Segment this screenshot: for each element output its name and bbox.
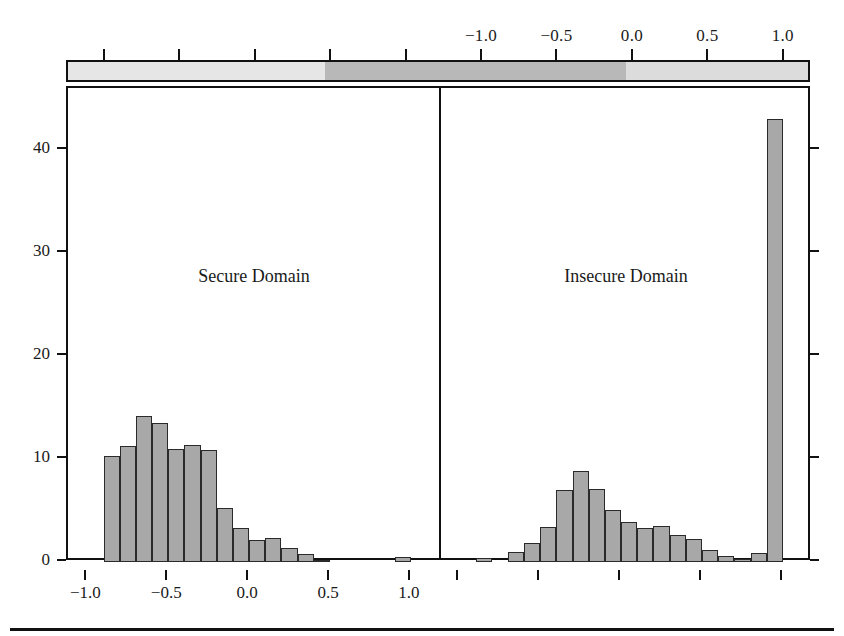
histogram-bar [249, 540, 265, 562]
histogram-bar [233, 528, 249, 562]
x-axis-tick [84, 570, 86, 580]
top-axis-tick [480, 49, 482, 60]
histogram-bar [556, 490, 572, 562]
y-axis-tick [57, 250, 66, 252]
y-axis-label: 40 [0, 138, 50, 158]
histogram-bar [217, 508, 233, 562]
colour-band [626, 62, 810, 80]
histogram-bar [168, 449, 184, 562]
y-axis-tick [57, 559, 66, 561]
histogram-bar [540, 527, 556, 562]
histogram-bar [605, 510, 621, 562]
top-axis-label: 0.5 [696, 26, 718, 46]
y-axis-label: 30 [0, 241, 50, 261]
x-axis-tick [780, 570, 782, 580]
histogram-bar [670, 535, 686, 562]
y-axis-tick [57, 353, 66, 355]
colour-band [68, 62, 325, 80]
histogram-bar [314, 560, 330, 562]
histogram-bar [136, 416, 152, 562]
x-axis-label: 0.0 [237, 583, 258, 603]
panel-title-insecure-domain: Insecure Domain [564, 266, 687, 287]
x-axis-label: 0.5 [317, 583, 338, 603]
histogram-bar [184, 445, 200, 562]
histogram-bar [298, 554, 314, 562]
top-axis-tick-unlabeled [103, 49, 105, 60]
panel-title-secure-domain: Secure Domain [198, 266, 309, 287]
colour-band [325, 62, 627, 80]
histogram-bar [573, 471, 589, 562]
x-axis-label: −0.5 [151, 583, 182, 603]
histogram-bar [653, 526, 669, 562]
top-axis-tick [706, 49, 708, 60]
top-axis-label: −1.0 [465, 26, 497, 46]
y-axis-label: 0 [0, 550, 50, 570]
panel-divider [439, 88, 441, 558]
histogram-bar [637, 528, 653, 562]
y-axis-tick [57, 456, 66, 458]
y-axis-tick-mirror [810, 559, 819, 561]
histogram-bar [476, 558, 492, 562]
histogram-bar [395, 557, 411, 562]
histogram-bar [686, 539, 702, 562]
top-axis-tick-unlabeled [405, 49, 407, 60]
x-axis-tick [165, 570, 167, 580]
histogram-bar [702, 550, 718, 562]
histogram-bar [734, 559, 750, 562]
y-axis-tick [57, 147, 66, 149]
histogram-bar [201, 450, 217, 562]
top-axis-tick-unlabeled [178, 49, 180, 60]
histogram-bar [508, 552, 524, 562]
histogram-bar [104, 456, 120, 562]
x-axis-label: −1.0 [70, 583, 101, 603]
histogram-bar [767, 119, 783, 562]
histogram-figure: −1.0−0.50.00.51.0 Secure DomainInsecure … [0, 0, 844, 636]
histogram-bar [120, 446, 136, 562]
y-axis-label: 20 [0, 344, 50, 364]
x-axis-tick [408, 570, 410, 580]
x-axis-label: 1.0 [398, 583, 419, 603]
histogram-bar [524, 543, 540, 562]
y-axis-tick-mirror [810, 250, 819, 252]
histogram-bar [589, 489, 605, 562]
top-axis-tick [782, 49, 784, 60]
plot-frame: Secure DomainInsecure Domain [66, 86, 810, 560]
top-axis-tick [631, 49, 633, 60]
x-axis-tick [618, 570, 620, 580]
histogram-bar [152, 423, 168, 562]
histogram-bar [265, 538, 281, 562]
y-axis-label: 10 [0, 447, 50, 467]
top-axis-tick-unlabeled [254, 49, 256, 60]
page-bottom-rule [10, 628, 834, 631]
x-axis-tick [456, 570, 458, 580]
histogram-bar [621, 522, 637, 562]
top-axis-label: 1.0 [772, 26, 794, 46]
y-axis-tick-mirror [810, 147, 819, 149]
y-axis-tick-mirror [810, 353, 819, 355]
top-axis-tick-unlabeled [329, 49, 331, 60]
x-axis-tick [246, 570, 248, 580]
x-axis-tick [327, 570, 329, 580]
histogram-bar [718, 556, 734, 562]
top-axis-tick [555, 49, 557, 60]
histogram-bar [281, 548, 297, 562]
y-axis-tick-mirror [810, 456, 819, 458]
top-axis-label: −0.5 [540, 26, 572, 46]
top-axis-label: 0.0 [621, 26, 643, 46]
x-axis-tick [699, 570, 701, 580]
x-axis-tick [537, 570, 539, 580]
colour-scale-strip [66, 60, 810, 82]
histogram-bar [751, 553, 767, 562]
